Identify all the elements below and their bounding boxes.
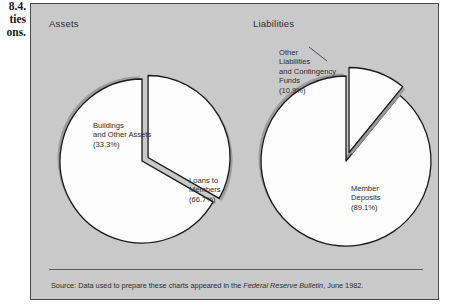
- pie-label-buildings-line-2: and Other Assets: [93, 130, 151, 139]
- pie-label-loans-line-1: Loans to: [189, 176, 221, 185]
- pie-label-member-deposits: Member Deposits (89.1%): [351, 184, 381, 212]
- pie-label-deposits-line-3: (89.1%): [351, 203, 381, 212]
- pie-label-other-line-1: Other: [279, 48, 336, 57]
- pie-label-other-line-2: Liabilities: [279, 57, 336, 66]
- source-divider: [49, 269, 423, 270]
- source-prefix: Source: Data used to prepare these chart…: [51, 281, 243, 290]
- pie-label-other-line-4: Funds: [279, 76, 336, 85]
- figure-container: 8.4. ties ons. Assets Liabilities Buildi…: [0, 0, 453, 305]
- pie-label-buildings-line-1: Buildings: [93, 121, 151, 130]
- pie-label-other-line-3: and Contingency: [279, 67, 336, 76]
- margin-caption-line-3: ons.: [0, 26, 26, 39]
- pie-label-other-liabilities: Other Liabilities and Contingency Funds …: [279, 48, 336, 95]
- pie-label-other-line-5: (10.9%): [279, 86, 336, 95]
- figure-panel: Assets Liabilities Buildings and Other A…: [30, 3, 439, 300]
- source-publication: Federal Reserve Bulletin: [243, 281, 323, 290]
- pie-slice-member-deposits: [261, 76, 431, 246]
- pie-chart-assets: [57, 75, 232, 243]
- pie-label-loans-line-3: (66.7%): [189, 195, 221, 204]
- source-suffix: , June 1982.: [323, 281, 363, 290]
- margin-caption: 8.4. ties ons.: [0, 0, 26, 40]
- pie-label-buildings-line-3: (33.3%): [93, 140, 151, 149]
- pie-label-deposits-line-2: Deposits: [351, 193, 381, 202]
- pie-label-buildings-and-other-assets: Buildings and Other Assets (33.3%): [93, 121, 151, 149]
- margin-caption-line-2: ties: [0, 13, 26, 26]
- pie-label-loans-line-2: Members: [189, 185, 221, 194]
- source-note: Source: Data used to prepare these chart…: [51, 281, 363, 290]
- pie-charts-canvas: [31, 4, 438, 299]
- pie-label-loans-to-members: Loans to Members (66.7%): [189, 176, 221, 204]
- margin-caption-line-1: 8.4.: [0, 0, 26, 13]
- pie-label-deposits-line-1: Member: [351, 184, 381, 193]
